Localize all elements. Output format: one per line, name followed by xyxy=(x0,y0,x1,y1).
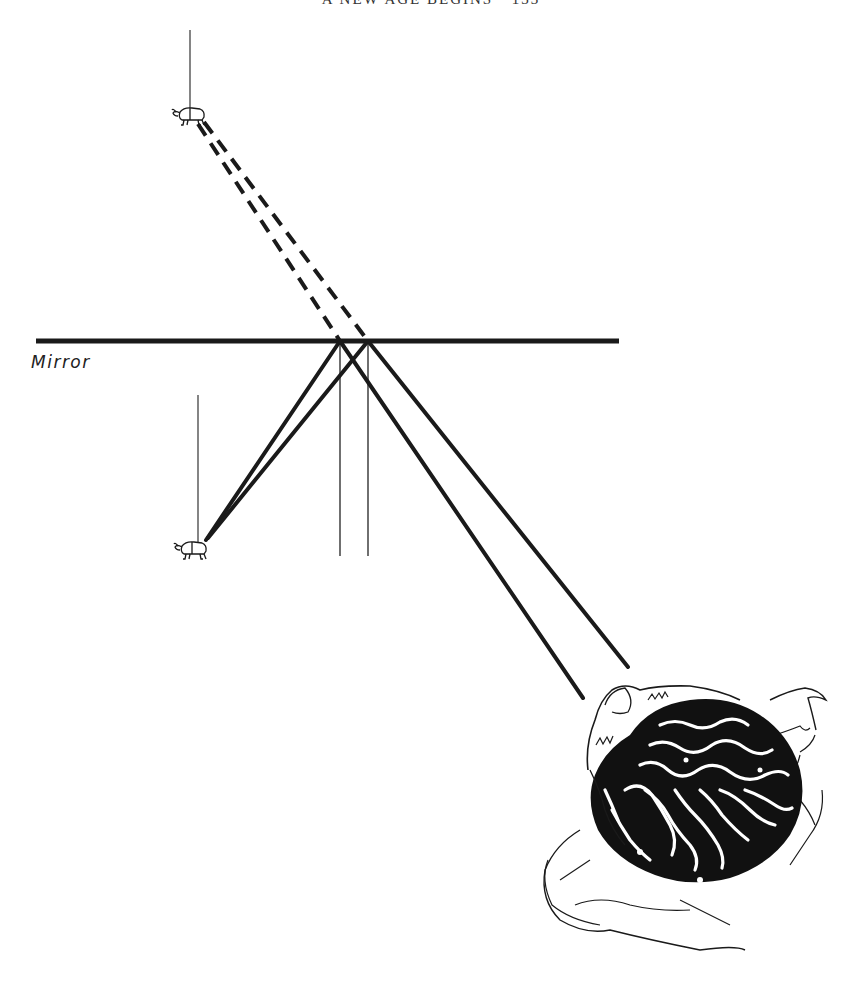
reflected-ray-1 xyxy=(340,341,583,698)
observer-head-illustration xyxy=(544,686,826,950)
reflected-rays xyxy=(340,341,628,698)
virtual-ray-2 xyxy=(204,122,368,341)
virtual-rays xyxy=(198,122,368,341)
mirror-label: Mirror xyxy=(31,352,91,372)
incident-ray-2 xyxy=(208,341,368,538)
incident-rays xyxy=(206,341,368,540)
object-beetle-icon xyxy=(174,542,206,559)
mirror-reflection-diagram xyxy=(0,0,862,982)
virtual-ray-1 xyxy=(198,124,340,341)
incident-ray-1 xyxy=(206,341,340,540)
image-beetle-icon xyxy=(172,108,204,125)
reflected-ray-2 xyxy=(368,341,628,667)
